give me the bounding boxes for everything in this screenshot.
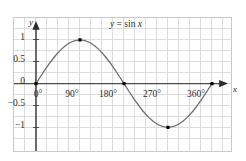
x-axis-name-label: x	[233, 85, 237, 94]
equation-variable: x	[138, 19, 142, 29]
x-tick-label-90deg: 90°	[58, 90, 86, 100]
marker-180deg	[122, 82, 125, 85]
x-tick-label-360deg: 360°	[180, 90, 212, 100]
x-tick-label-0deg: 0°	[27, 90, 49, 100]
marker-270deg	[166, 126, 169, 129]
marker-360deg	[210, 82, 213, 85]
y-tick-label-neg-0-5: −0.5	[0, 99, 25, 109]
y-tick-label-0-5: 0.5	[1, 55, 25, 65]
y-tick-label-1: 1	[5, 33, 25, 43]
x-tick-label-270deg: 270°	[136, 90, 168, 100]
x-tick-label-180deg: 180°	[92, 90, 124, 100]
y-tick-label-0: 0	[5, 77, 25, 87]
y-axis-name-label: y	[29, 18, 33, 27]
marker-0deg	[34, 82, 37, 85]
data-point-markers	[14, 18, 231, 151]
sine-curve-figure: 1 0.5 0 −0.5 −1 0° 90° 180° 270° 360° y …	[0, 0, 246, 161]
plot-frame	[13, 17, 232, 152]
y-tick-label-neg-1: −1	[2, 121, 25, 131]
marker-90deg	[78, 38, 81, 41]
equation-annotation: y = sin x	[110, 20, 142, 30]
equation-function: sin	[124, 19, 135, 29]
